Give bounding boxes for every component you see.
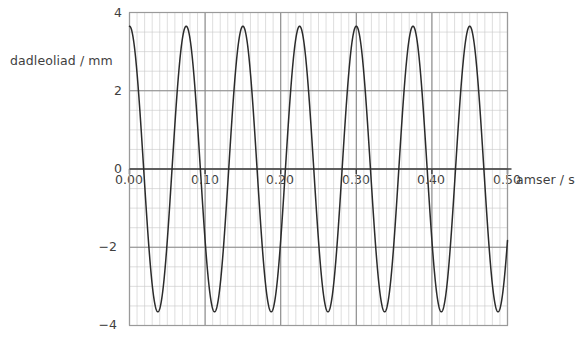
plot-area	[0, 0, 586, 340]
chart-figure: dadleoliad / mm amser / s 4 2 0 −2 −4 0.…	[0, 0, 586, 340]
